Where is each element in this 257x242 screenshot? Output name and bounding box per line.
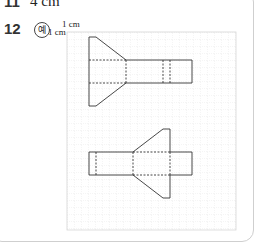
grid-paper: [67, 32, 236, 230]
grid-drawing: [0, 0, 257, 242]
